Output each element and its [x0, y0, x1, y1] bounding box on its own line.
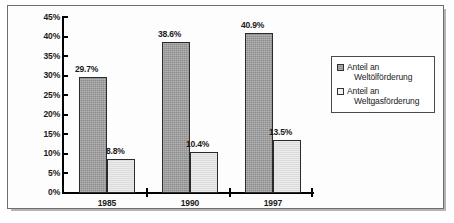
- x-category-label-1997: 1997: [245, 198, 301, 208]
- x-category-label-1990: 1990: [162, 198, 218, 208]
- legend-swatch-oil-icon: [337, 64, 344, 71]
- y-axis-line: [62, 16, 64, 194]
- y-tick-label-15: 15%: [16, 130, 60, 139]
- chart-figure: 45% 40% 35% 30% 25% 20% 15% 10% 5% 0%: [0, 0, 454, 223]
- legend-item-oil: Anteil an Weltölförderung: [337, 62, 429, 82]
- x-tick-3: [311, 188, 313, 197]
- legend-label-oil-line2: Weltölförderung: [347, 72, 412, 82]
- y-tick-label-5: 5%: [16, 169, 60, 178]
- legend-swatch-gas-icon: [337, 88, 344, 95]
- y-tick-label-35: 35%: [16, 52, 60, 61]
- bar-label-1990-oil: 38.6%: [158, 29, 181, 39]
- bar-1990-oil: [162, 42, 190, 193]
- y-tick-5: [64, 172, 68, 174]
- y-tick-25: [64, 94, 68, 96]
- y-tick-35: [64, 55, 68, 57]
- y-tick-15: [64, 133, 68, 135]
- legend-label-oil: Anteil an Weltölförderung: [347, 62, 412, 82]
- y-tick-0: [64, 192, 68, 194]
- y-tick-label-25: 25%: [16, 91, 60, 100]
- bar-label-1990-gas: 10.4%: [186, 139, 209, 149]
- x-tick-2: [229, 188, 231, 197]
- y-axis-labels: 45% 40% 35% 30% 25% 20% 15% 10% 5% 0%: [12, 0, 60, 223]
- legend-label-gas: Anteil an Weltgasförderung: [347, 86, 419, 106]
- y-tick-label-45: 45%: [16, 13, 60, 22]
- x-tick-1: [146, 188, 148, 197]
- y-tick-10: [64, 153, 68, 155]
- legend-label-gas-line1: Anteil an: [347, 86, 379, 96]
- y-tick-label-20: 20%: [16, 110, 60, 119]
- y-tick-45: [64, 16, 68, 18]
- legend-label-gas-line2: Weltgasförderung: [347, 96, 419, 106]
- chart-legend: Anteil an Weltölförderung Anteil an Welt…: [331, 56, 435, 113]
- legend-item-gas: Anteil an Weltgasförderung: [337, 86, 429, 106]
- y-tick-30: [64, 75, 68, 77]
- bar-1985-gas: [107, 159, 135, 193]
- bar-1990-gas: [190, 152, 218, 193]
- bar-1997-oil: [245, 33, 273, 193]
- plot-area: 45% 40% 35% 30% 25% 20% 15% 10% 5% 0%: [0, 0, 454, 223]
- bar-1985-oil: [79, 77, 107, 193]
- y-tick-label-30: 30%: [16, 71, 60, 80]
- y-tick-label-0: 0%: [16, 188, 60, 197]
- bar-1997-gas: [273, 140, 301, 193]
- x-category-label-1985: 1985: [79, 198, 135, 208]
- bar-label-1985-gas: 8.8%: [106, 146, 125, 156]
- y-tick-label-10: 10%: [16, 149, 60, 158]
- legend-label-oil-line1: Anteil an: [347, 62, 379, 72]
- y-tick-20: [64, 114, 68, 116]
- bar-label-1997-gas: 13.5%: [269, 127, 292, 137]
- bar-label-1985-oil: 29.7%: [75, 64, 98, 74]
- y-tick-40: [64, 36, 68, 38]
- y-tick-label-40: 40%: [16, 32, 60, 41]
- bar-label-1997-oil: 40.9%: [241, 20, 264, 30]
